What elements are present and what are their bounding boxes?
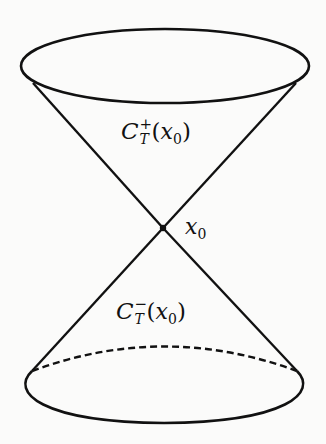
apex-label: x0 — [185, 216, 206, 241]
variable-subscript: 0 — [173, 131, 182, 147]
open-paren: ( — [147, 298, 156, 324]
future-cone-label: C+T(x0) — [121, 120, 191, 146]
cone-symbol: C — [121, 118, 139, 144]
apex-point — [160, 225, 166, 231]
close-paren: ) — [182, 118, 191, 144]
superscript-minus: − — [135, 297, 148, 312]
future-cone-left-edge — [33, 83, 163, 228]
variable-subscript: 0 — [168, 311, 177, 327]
subscript-t: T — [140, 132, 149, 146]
past-cone-label: C−T(x0) — [116, 300, 186, 326]
variable-x: x — [156, 299, 168, 324]
future-cone-rim — [21, 29, 309, 103]
superscript-plus: + — [140, 117, 153, 132]
past-cone-rim-front — [25, 371, 303, 423]
close-paren: ) — [177, 298, 186, 324]
future-cone-right-edge — [163, 83, 296, 228]
variable-subscript: 0 — [197, 226, 206, 242]
open-paren: ( — [152, 118, 161, 144]
light-cone-diagram — [0, 0, 326, 444]
variable-x: x — [161, 119, 173, 144]
subscript-t: T — [135, 312, 144, 326]
past-cone-rim-back — [32, 347, 297, 372]
variable-x: x — [185, 214, 197, 239]
cone-symbol: C — [116, 298, 134, 324]
